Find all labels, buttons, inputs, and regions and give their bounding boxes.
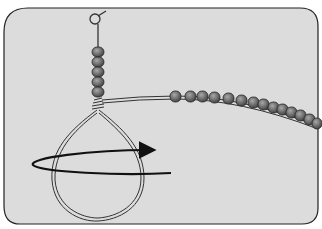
- vertical-bead-stack: [92, 47, 104, 97]
- panel: [4, 8, 318, 224]
- illustration-canvas: [0, 0, 322, 229]
